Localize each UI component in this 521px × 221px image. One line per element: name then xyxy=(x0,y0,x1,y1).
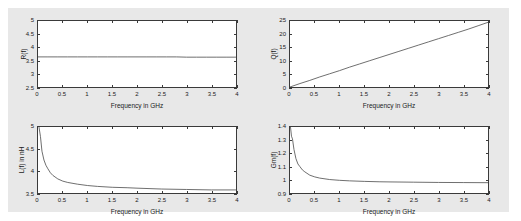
x-tick-label: 0 xyxy=(35,91,38,98)
x-tick-label: 4 xyxy=(487,91,490,98)
x-tick-top xyxy=(137,126,138,129)
x-tick xyxy=(314,85,315,88)
x-tick-label: 2.5 xyxy=(410,91,418,98)
y-tick xyxy=(289,126,292,127)
x-tick-top xyxy=(389,126,390,129)
x-tick xyxy=(162,191,163,194)
y-tick-label: 4.5 xyxy=(15,30,34,37)
x-tick-label: 3 xyxy=(185,91,188,98)
x-tick-top xyxy=(112,126,113,129)
x-tick-label: 3 xyxy=(185,197,188,204)
y-tick xyxy=(289,34,292,35)
y-tick-label: 25 xyxy=(267,17,286,24)
y-tick-right xyxy=(234,61,237,62)
y-tick xyxy=(289,88,292,89)
quality-factor-axis-decor xyxy=(289,20,489,88)
x-tick-label: 0.5 xyxy=(310,91,318,98)
x-tick-top xyxy=(364,20,365,23)
x-tick xyxy=(489,191,490,194)
y-tick xyxy=(37,74,40,75)
y-tick xyxy=(289,61,292,62)
x-tick-top xyxy=(414,20,415,23)
x-tick-top xyxy=(162,20,163,23)
x-tick-label: 4 xyxy=(235,197,238,204)
x-tick-top xyxy=(489,126,490,129)
y-tick-label: 5 xyxy=(267,71,286,78)
inductance-xaxis-title: Frequency in GHz xyxy=(111,208,163,216)
x-tick-label: 2 xyxy=(387,91,390,98)
x-tick-label: 1.5 xyxy=(108,197,116,204)
x-tick-label: 0 xyxy=(287,197,290,204)
resistance-yaxis-title: R(f) xyxy=(20,49,28,60)
resistance-xaxis-title: Frequency in GHz xyxy=(111,102,163,110)
x-tick xyxy=(62,85,63,88)
x-tick-label: 2 xyxy=(387,197,390,204)
x-tick-top xyxy=(187,126,188,129)
x-tick-top xyxy=(339,20,340,23)
y-tick-right xyxy=(234,34,237,35)
y-tick xyxy=(37,20,40,21)
y-tick xyxy=(37,88,40,89)
y-tick xyxy=(37,47,40,48)
x-tick-top xyxy=(314,126,315,129)
y-tick-label: 1.4 xyxy=(267,123,286,130)
x-tick-label: 3.5 xyxy=(460,197,468,204)
x-tick-label: 1.5 xyxy=(360,197,368,204)
y-tick-label: 3.5 xyxy=(15,191,34,198)
y-tick-right xyxy=(234,20,237,21)
y-tick-label: 0 xyxy=(267,85,286,92)
y-tick-right xyxy=(486,74,489,75)
x-tick-top xyxy=(389,20,390,23)
x-tick xyxy=(212,191,213,194)
x-tick xyxy=(87,85,88,88)
x-tick xyxy=(339,191,340,194)
x-tick-top xyxy=(187,20,188,23)
x-tick-label: 0 xyxy=(35,197,38,204)
x-tick-label: 1 xyxy=(337,197,340,204)
gain-yaxis-title: Gm(f) xyxy=(270,152,278,169)
resistance-axis-decor xyxy=(37,20,237,88)
x-tick xyxy=(187,191,188,194)
y-tick-label: 1.3 xyxy=(267,136,286,143)
x-tick-top xyxy=(112,20,113,23)
y-tick-right xyxy=(234,47,237,48)
y-tick-right xyxy=(486,140,489,141)
y-tick-label: 0.9 xyxy=(267,191,286,198)
x-tick-label: 2.5 xyxy=(410,197,418,204)
x-tick-top xyxy=(212,20,213,23)
x-tick-label: 3.5 xyxy=(208,197,216,204)
x-tick xyxy=(137,85,138,88)
x-tick-label: 0.5 xyxy=(58,197,66,204)
y-tick xyxy=(289,167,292,168)
x-tick xyxy=(62,191,63,194)
y-tick-right xyxy=(234,171,237,172)
x-tick xyxy=(237,85,238,88)
y-tick xyxy=(37,171,40,172)
x-tick xyxy=(187,85,188,88)
x-tick-label: 2 xyxy=(135,197,138,204)
y-tick xyxy=(289,20,292,21)
y-tick xyxy=(37,34,40,35)
x-tick xyxy=(439,191,440,194)
y-tick-label: 20 xyxy=(267,30,286,37)
y-tick xyxy=(37,61,40,62)
x-tick-label: 1 xyxy=(85,91,88,98)
y-tick-right xyxy=(486,194,489,195)
x-tick-label: 2 xyxy=(135,91,138,98)
x-tick-label: 3.5 xyxy=(208,91,216,98)
x-tick xyxy=(112,85,113,88)
x-tick xyxy=(464,85,465,88)
y-tick-label: 2.5 xyxy=(15,85,34,92)
x-tick-top xyxy=(62,20,63,23)
y-tick-right xyxy=(486,34,489,35)
x-tick xyxy=(489,85,490,88)
x-tick-top xyxy=(237,126,238,129)
y-tick xyxy=(289,74,292,75)
x-tick-top xyxy=(314,20,315,23)
y-tick-label: 1 xyxy=(267,177,286,184)
y-tick-right xyxy=(486,180,489,181)
y-tick-right xyxy=(234,126,237,127)
x-tick-label: 0.5 xyxy=(58,91,66,98)
x-tick-label: 2.5 xyxy=(158,91,166,98)
x-tick-top xyxy=(162,126,163,129)
